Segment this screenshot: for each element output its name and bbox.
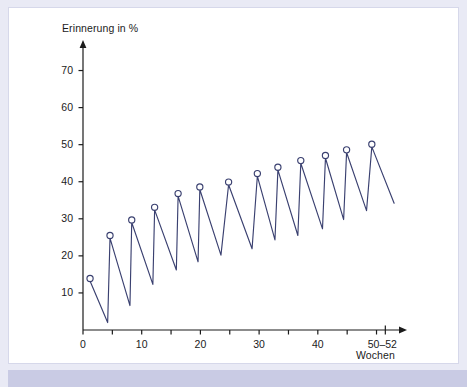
y-tick-label: 50 xyxy=(47,138,73,150)
axes-group xyxy=(79,40,408,335)
x-tick-label: 50–52 xyxy=(357,338,407,350)
x-tick-label: 0 xyxy=(58,338,108,350)
x-tick-label: 10 xyxy=(117,338,167,350)
y-tick-label: 30 xyxy=(47,212,73,224)
y-axis-title: Erinnerung in % xyxy=(62,22,138,34)
chart-plot-area: Erinnerung in % Wochen 10203040506070 01… xyxy=(0,0,467,387)
x-axis-title: Wochen xyxy=(356,349,395,361)
x-tick-label: 20 xyxy=(175,338,225,350)
y-tick-label: 70 xyxy=(47,64,73,76)
series-group xyxy=(90,147,394,323)
y-tick-label: 60 xyxy=(47,101,73,113)
data-point-markers xyxy=(87,141,375,281)
y-tick-label: 10 xyxy=(47,286,73,298)
figure-page: Erinnerung in % Wochen 10203040506070 01… xyxy=(0,0,467,387)
x-tick-label: 30 xyxy=(234,338,284,350)
y-tick-label: 20 xyxy=(47,249,73,261)
y-tick-label: 40 xyxy=(47,175,73,187)
sawtooth-line-chart xyxy=(0,0,467,387)
x-tick-label: 40 xyxy=(293,338,343,350)
